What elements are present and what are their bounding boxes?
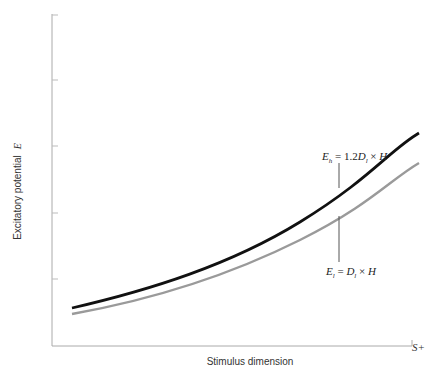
ann-high-h: H <box>379 150 387 162</box>
ann-high-d: D <box>358 150 366 162</box>
ann-low-h: H <box>368 265 376 277</box>
ann-low-e: E <box>326 265 333 277</box>
y-axis-symbol: E <box>12 143 23 149</box>
y-axis-label-text: Excitatory potential <box>12 155 23 240</box>
s-plus-label: S+ <box>412 341 425 353</box>
y-axis-label: Excitatory potentialE <box>12 117 23 267</box>
ann-high-times: × <box>368 150 380 162</box>
ann-high-eq: = 1.2 <box>332 150 357 162</box>
y-ticks <box>52 15 58 279</box>
ann-high-e: E <box>322 150 329 162</box>
ann-low-eq: = <box>335 265 347 277</box>
ann-low-times: × <box>356 265 368 277</box>
chart-canvas <box>0 0 440 380</box>
x-axis-label: Stimulus dimension <box>150 356 350 367</box>
annotation-high: Eh = 1.2Dl × H <box>322 150 387 165</box>
annotation-low: El = Dl × H <box>326 265 376 280</box>
series-low-curve <box>72 163 419 314</box>
